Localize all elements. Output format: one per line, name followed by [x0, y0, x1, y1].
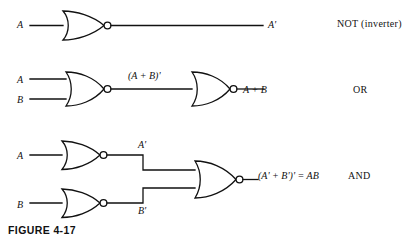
label-row2-input-b: B: [17, 94, 23, 105]
figure-4-17: A A' NOT (inverter) A B (A + B)' A + B O…: [0, 0, 415, 242]
circuit-diagram: [0, 0, 415, 242]
gate-row3-nor-out: [195, 161, 236, 198]
label-row3-a-not: A': [138, 139, 146, 150]
gate-row2-nor-1: [66, 72, 104, 106]
category-label-and: AND: [348, 170, 371, 181]
wire-row3-b-not: [107, 188, 195, 203]
label-row1-input-a: A: [17, 19, 23, 30]
label-row3-b-not: B': [138, 205, 146, 216]
bubble-row3-nor-out: [236, 176, 243, 183]
category-label-not: NOT (inverter): [337, 18, 402, 29]
bubble-row3-nor-b: [100, 200, 107, 207]
label-row3-output: (A' + B')' = AB: [258, 170, 319, 181]
label-row1-output: A': [268, 19, 276, 30]
bubble-row3-nor-a: [100, 152, 107, 159]
category-label-or: OR: [353, 84, 368, 95]
gate-row1-nor: [63, 11, 104, 40]
figure-caption: FIGURE 4-17: [8, 224, 76, 236]
bubble-row2-nor-1: [104, 86, 111, 93]
label-row2-intermediate: (A + B)': [128, 70, 161, 81]
label-row2-input-a: A: [17, 74, 23, 85]
gate-row3-nor-b: [62, 189, 100, 218]
bubble-row2-nor-2: [230, 86, 237, 93]
label-row2-output: A + B: [243, 84, 267, 95]
wire-row3-a-not: [107, 155, 195, 170]
bubble-row1-nor: [104, 22, 111, 29]
gate-row2-nor-2: [192, 72, 230, 106]
gate-row3-nor-a: [62, 141, 100, 170]
label-row3-input-b: B: [17, 199, 23, 210]
label-row3-input-a: A: [17, 150, 23, 161]
